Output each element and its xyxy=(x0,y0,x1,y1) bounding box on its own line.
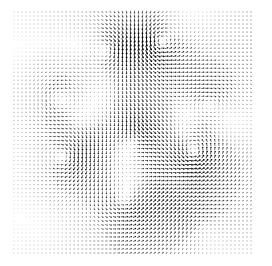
quiver-figure xyxy=(0,0,272,266)
vector-field-plot xyxy=(0,0,272,266)
